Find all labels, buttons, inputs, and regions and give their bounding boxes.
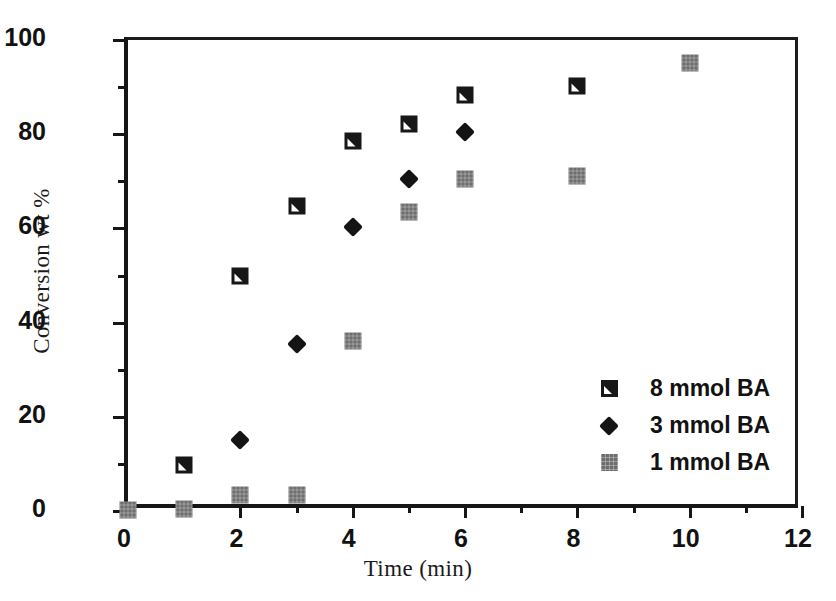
- x-axis-tick-major: [352, 506, 355, 518]
- data-point: [288, 486, 305, 503]
- data-point-marker-diamond: [599, 416, 619, 436]
- x-axis-tick-minor: [408, 506, 411, 513]
- y-axis-tick-major: [113, 133, 126, 136]
- x-axis-title: Time (min): [0, 556, 836, 582]
- y-axis-tick-label: 80: [18, 117, 46, 146]
- x-axis-tick-label: 8: [566, 524, 580, 553]
- legend-label: 3 mmol BA: [650, 412, 770, 439]
- x-axis-tick-label: 0: [117, 524, 131, 553]
- data-point: [232, 487, 249, 504]
- data-point: [120, 501, 137, 518]
- y-axis-tick-major: [113, 416, 126, 419]
- y-axis-tick-label: 100: [4, 23, 46, 52]
- chart-legend: 8 mmol BA3 mmol BA1 mmol BA: [596, 370, 770, 481]
- y-axis-tick-minor: [118, 463, 126, 466]
- legend-marker-square-gray: [596, 454, 622, 471]
- x-axis-tick-major: [689, 506, 692, 518]
- x-axis-tick-minor: [745, 506, 748, 513]
- x-axis-tick-label: 12: [784, 524, 812, 553]
- data-point: [400, 204, 417, 221]
- y-axis-tick-minor: [118, 180, 126, 183]
- data-point: [681, 55, 698, 72]
- data-point-marker-square-notched: [601, 380, 618, 397]
- x-axis-tick-major: [576, 506, 579, 518]
- y-axis-tick-minor: [118, 86, 126, 89]
- chart-figure: Conversion wt % Time (min) 8 mmol BA3 mm…: [0, 0, 836, 601]
- x-axis-tick-major: [464, 506, 467, 518]
- data-point: [457, 170, 474, 187]
- legend-label: 8 mmol BA: [650, 375, 770, 402]
- legend-label: 1 mmol BA: [650, 449, 770, 476]
- y-axis-tick-minor: [118, 275, 126, 278]
- data-point-marker-square-gray: [601, 454, 618, 471]
- y-axis-tick-minor: [118, 369, 126, 372]
- legend-marker-square-notched: [596, 380, 622, 397]
- y-axis-tick-label: 0: [32, 494, 46, 523]
- data-point: [569, 167, 586, 184]
- data-point: [344, 332, 361, 349]
- legend-item: 8 mmol BA: [596, 370, 770, 407]
- x-axis-tick-major: [239, 506, 242, 518]
- x-axis-tick-minor: [296, 506, 299, 513]
- y-axis-tick-label: 20: [18, 399, 46, 428]
- x-axis-tick-label: 6: [454, 524, 468, 553]
- x-axis-tick-label: 2: [229, 524, 243, 553]
- x-axis-tick-minor: [520, 506, 523, 513]
- data-point: [176, 501, 193, 518]
- x-axis-tick-label: 10: [672, 524, 700, 553]
- x-axis-tick-label: 4: [342, 524, 356, 553]
- y-axis-title: Conversion wt %: [29, 121, 55, 421]
- legend-item: 3 mmol BA: [596, 407, 770, 444]
- x-axis-tick-minor: [633, 506, 636, 513]
- y-axis-tick-major: [113, 39, 126, 42]
- x-axis-tick-major: [801, 506, 804, 518]
- legend-item: 1 mmol BA: [596, 444, 770, 481]
- y-axis-tick-label: 40: [18, 305, 46, 334]
- y-axis-tick-major: [113, 322, 126, 325]
- legend-marker-diamond: [596, 419, 622, 433]
- y-axis-tick-label: 60: [18, 211, 46, 240]
- y-axis-tick-major: [113, 227, 126, 230]
